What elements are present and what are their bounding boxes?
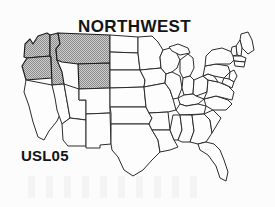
shaded-northwest-states (22, 33, 110, 89)
state-oregon (22, 56, 52, 80)
state-oklahoma (110, 107, 152, 124)
state-tennessee (176, 104, 206, 115)
state-michigan-lower (180, 54, 194, 78)
state-wyoming (78, 63, 110, 89)
state-montana (56, 33, 110, 64)
state-connecticut-rhode-island (234, 61, 245, 67)
state-florida (198, 142, 228, 181)
map-code-label: USL05 (21, 147, 69, 164)
state-south-dakota (110, 52, 140, 70)
map-title-label: NORTHWEST (78, 17, 191, 37)
state-arkansas (149, 112, 170, 130)
state-ohio (193, 76, 208, 96)
state-washington (24, 33, 50, 58)
state-nebraska (110, 70, 145, 88)
state-vermont (231, 46, 237, 56)
northwest-region-map-figure: NORTHWEST USL05 (0, 0, 275, 207)
state-indiana (182, 76, 194, 95)
state-arizona (62, 118, 86, 146)
state-kansas (110, 87, 146, 107)
state-north-dakota (110, 35, 138, 53)
state-new-mexico (86, 113, 111, 148)
state-minnesota (138, 36, 163, 70)
